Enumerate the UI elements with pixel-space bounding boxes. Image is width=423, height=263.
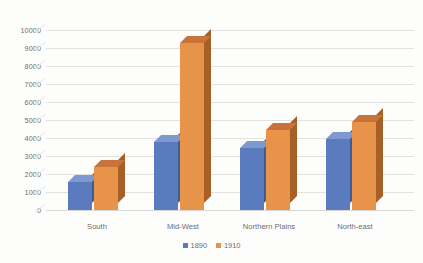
- bar-face: [154, 142, 178, 210]
- gridline: [46, 30, 414, 31]
- bar-face: [266, 130, 290, 210]
- plot-area: [46, 18, 414, 218]
- bar-side: [204, 29, 211, 203]
- bar-1910-south: [94, 167, 118, 210]
- legend-item-1910: 1910: [216, 241, 240, 250]
- y-axis: 0 1000 2000 3000 4000 5000 6000 7000 800…: [0, 0, 44, 263]
- bar-side: [290, 116, 297, 203]
- x-tick-label-north-east: North-east: [337, 222, 372, 231]
- legend-swatch-icon: [183, 243, 188, 248]
- bar-face: [326, 139, 350, 210]
- legend-item-1890: 1890: [183, 241, 207, 250]
- bar-1890-mid-west: [154, 142, 178, 210]
- bar-face: [352, 122, 376, 210]
- bar-1890-south: [68, 182, 92, 210]
- legend: 1890 1910: [0, 241, 423, 250]
- bar-1890-north-east: [326, 139, 350, 210]
- gridline: [46, 48, 414, 49]
- bar-1910-northern-plains: [266, 130, 290, 210]
- x-tick-label-south: South: [87, 222, 107, 231]
- legend-label: 1890: [191, 241, 207, 250]
- bar-1910-north-east: [352, 122, 376, 210]
- legend-swatch-icon: [216, 243, 221, 248]
- bar-face: [180, 43, 204, 210]
- bar-face: [94, 167, 118, 210]
- bar-1890-northern-plains: [240, 148, 264, 210]
- gridline: [46, 102, 414, 103]
- bar-face: [68, 182, 92, 210]
- bar-1910-mid-west: [180, 43, 204, 210]
- gridline: [46, 66, 414, 67]
- x-tick-label-northern-plains: Northern Plains: [243, 222, 295, 231]
- x-tick-label-mid-west: Mid-West: [167, 222, 199, 231]
- legend-label: 1910: [224, 241, 240, 250]
- bar-face: [240, 148, 264, 210]
- gridline: [46, 84, 414, 85]
- gridline-baseline: [46, 210, 414, 211]
- bar-chart: 0 1000 2000 3000 4000 5000 6000 7000 800…: [0, 0, 423, 263]
- bar-side: [376, 108, 383, 203]
